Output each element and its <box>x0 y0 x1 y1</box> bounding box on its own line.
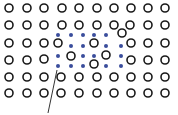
lattice-diagram <box>0 0 178 115</box>
solute-atom-dot <box>104 33 108 37</box>
solute-atom-dot <box>81 64 85 68</box>
solute-atom-dot <box>119 64 123 68</box>
solute-atom-dot <box>69 33 73 37</box>
solute-atom-dot <box>92 54 96 58</box>
solute-atom-dot <box>56 54 60 58</box>
solute-atom-dot <box>81 54 85 58</box>
solute-atom-dot <box>92 33 96 37</box>
solute-atom-dot <box>69 44 73 48</box>
solute-atom-dot <box>56 64 60 68</box>
solute-atom-dot <box>69 64 73 68</box>
solute-atom-dot <box>104 44 108 48</box>
solute-atom-dot <box>119 44 123 48</box>
solute-atom-dot <box>104 64 108 68</box>
solute-atom-dot <box>81 33 85 37</box>
solute-atom-dot <box>81 44 85 48</box>
solute-atom-dot <box>56 33 60 37</box>
solute-atom-dot <box>119 54 123 58</box>
